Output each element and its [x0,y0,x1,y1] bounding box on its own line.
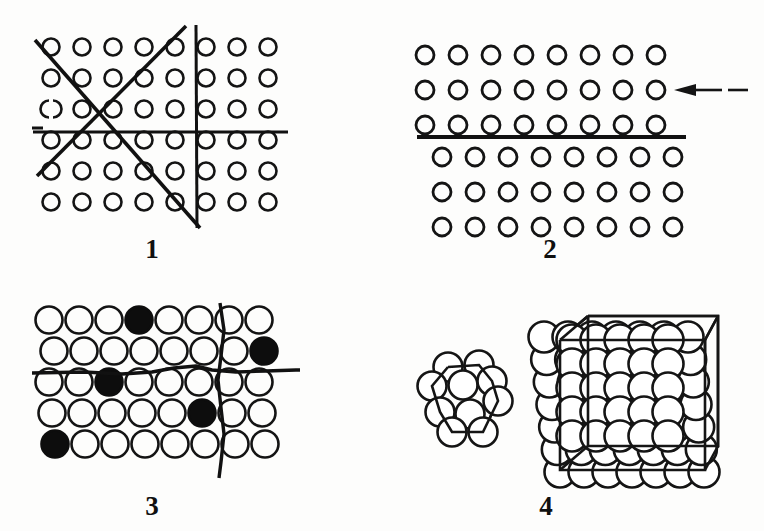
lattice-node-lower [598,218,616,236]
lattice-node-lower [433,183,451,201]
lattice-node-lower [565,183,583,201]
lattice-node [198,70,215,87]
lattice-node [260,163,277,180]
figure-sheet: 1 2 3 4 [0,0,764,531]
lattice-node-upper [548,116,566,134]
lattice-node [72,431,99,458]
lattice-node [162,431,189,458]
lattice-node-upper [614,116,632,134]
lattice-node-upper [416,46,434,64]
impurity-atom [189,400,216,427]
lattice-node-upper [647,46,665,64]
lattice-node-lower [466,218,484,236]
lattice-node [167,132,184,149]
panel-1-caption: 1 [132,236,172,263]
panel-4-hard-sphere-models [380,265,764,495]
atom-sphere-small [449,371,478,400]
lattice-node [156,307,183,334]
lattice-node [249,400,276,427]
lattice-node-upper [515,46,533,64]
lattice-node [260,39,277,56]
lattice-node [252,431,279,458]
lattice-node-upper [647,116,665,134]
impurity-atom [251,338,278,365]
lattice-node-upper [482,116,500,134]
lattice-node-upper [548,46,566,64]
lattice-node-lower [664,148,682,166]
lattice-node-upper [581,81,599,99]
lattice-node [136,101,153,118]
panel-4-caption: 4 [526,493,566,520]
lattice-node [198,132,215,149]
lattice-node [74,132,91,149]
lattice-node-upper [482,46,500,64]
lattice-node [229,163,246,180]
lattice-node-upper [614,46,632,64]
lattice-node [131,338,158,365]
lattice-node [229,194,246,211]
lattice-node [66,307,93,334]
lattice-node-upper [449,81,467,99]
lattice-node-upper [449,46,467,64]
lattice-node [186,307,213,334]
lattice-node-lower [532,183,550,201]
shear-arrow-head [674,84,696,96]
lattice-node [105,39,122,56]
panel-2-canvas [380,0,764,250]
lattice-node [41,338,68,365]
lattice-node [36,307,63,334]
small-atom-cluster-group [418,351,513,447]
lattice-node-lower [499,148,517,166]
lattice-node [198,101,215,118]
lattice-node [105,194,122,211]
lattice-node-lower [499,218,517,236]
lattice-node-lower [466,148,484,166]
lattice-node-upper [614,81,632,99]
panel-2-slip-step [380,0,764,250]
lattice-node [260,194,277,211]
lattice-node-upper [482,81,500,99]
lattice-node [260,101,277,118]
lattice-node [229,101,246,118]
lattice-node-lower [664,183,682,201]
lattice-node [105,163,122,180]
lattice-node [43,163,60,180]
lattice-node [167,70,184,87]
lattice-node-upper [416,116,434,134]
crystallite-cell-frame-top-3 [705,316,718,340]
lattice-node [260,132,277,149]
panel-2-caption: 2 [530,236,570,263]
lattice-node-lower [565,218,583,236]
panel-3-caption: 3 [132,493,172,520]
lattice-node [159,400,186,427]
lattice-node [260,70,277,87]
lattice-node-lower [565,148,583,166]
lattice-node [198,194,215,211]
large-atom-crystallite-group [529,316,720,488]
lattice-node-lower [499,183,517,201]
impurity-atom [126,307,153,334]
lattice-node [192,431,219,458]
lattice-node [229,132,246,149]
lattice-node [74,163,91,180]
lattice-node [102,431,129,458]
lattice-node [74,70,91,87]
lattice-node-upper [548,81,566,99]
lattice-node [43,132,60,149]
vertical-glide-line [196,25,197,228]
lattice-node [186,369,213,396]
lattice-node-broken-left [41,101,49,118]
lattice-node [74,39,91,56]
lattice-node [43,70,60,87]
lattice-node-upper [581,116,599,134]
lattice-node [99,400,126,427]
lattice-node-upper [581,46,599,64]
lattice-node [229,39,246,56]
lattice-node-lower [664,218,682,236]
lattice-node-upper [515,116,533,134]
lattice-node [198,163,215,180]
lattice-node [43,194,60,211]
lattice-node-lower [433,218,451,236]
panel-3-canvas [0,265,330,495]
panel-4-canvas [380,265,764,495]
